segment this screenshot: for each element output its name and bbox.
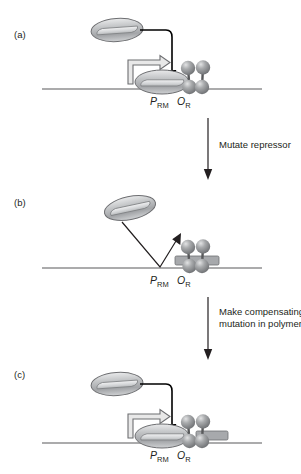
transition-label-ab-line1: Mutate repressor	[219, 139, 291, 150]
panel-a-letter: (a)	[14, 29, 26, 40]
svg-text:PRM: PRM	[150, 274, 169, 289]
panel-c: (c) PRM	[14, 369, 262, 464]
svg-text:PRM: PRM	[150, 95, 169, 110]
bound-polymerase-a	[135, 70, 189, 94]
or-subscript-b: R	[185, 280, 191, 289]
transition-a-to-b: Mutate repressor	[204, 118, 291, 180]
prm-symbol-a: P	[150, 95, 157, 107]
bounce-arrowhead-b	[172, 233, 181, 245]
bounce-arrow-b	[122, 222, 181, 267]
svg-text:OR: OR	[177, 95, 191, 110]
site-label-or-a: OR	[177, 95, 191, 110]
panel-b-letter: (b)	[14, 197, 26, 208]
or-symbol-c: O	[177, 449, 185, 461]
panel-a: (a) PRM OR	[14, 17, 262, 110]
figure-root: (a) PRM OR	[0, 0, 301, 474]
svg-text:OR: OR	[177, 274, 191, 289]
contact-arrow-c	[140, 384, 172, 426]
bound-polymerase-c	[135, 424, 189, 448]
or-symbol-a: O	[177, 95, 185, 107]
or-subscript-c: R	[185, 455, 191, 464]
free-polymerase-a	[90, 17, 143, 44]
free-polymerase-b	[102, 191, 158, 224]
contact-arrow-a	[140, 30, 172, 72]
prm-subscript-b: RM	[157, 280, 169, 289]
site-label-prm-c: PRM	[150, 449, 169, 464]
transition-arrowhead-ab	[204, 169, 212, 180]
panel-b: (b) PRM OR	[14, 191, 262, 288]
site-label-or-b: OR	[177, 274, 191, 289]
prm-symbol-c: P	[150, 449, 157, 461]
site-label-prm-a: PRM	[150, 95, 169, 110]
prm-symbol-b: P	[150, 274, 157, 286]
site-label-prm-b: PRM	[150, 274, 169, 289]
site-label-or-c: OR	[177, 449, 191, 464]
transition-b-to-c: Make compensating mutation in polymerase	[204, 297, 301, 360]
diagram-canvas: (a) PRM OR	[0, 0, 301, 474]
or-subscript-a: R	[185, 101, 191, 110]
transition-label-bc-line1: Make compensating	[219, 306, 301, 317]
svg-text:PRM: PRM	[150, 449, 169, 464]
free-polymerase-c	[90, 371, 143, 398]
prm-subscript-c: RM	[157, 455, 169, 464]
or-symbol-b: O	[177, 274, 185, 286]
transition-arrowhead-bc	[204, 349, 212, 360]
panel-c-letter: (c)	[14, 369, 25, 380]
prm-subscript-a: RM	[157, 101, 169, 110]
transition-label-bc-line2: mutation in polymerase	[219, 318, 301, 329]
svg-text:OR: OR	[177, 449, 191, 464]
